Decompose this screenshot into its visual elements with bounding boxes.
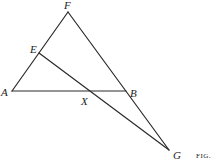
geometry-figure: F E A B X G FIG. xyxy=(0,0,217,161)
label-E: E xyxy=(29,43,37,55)
segment-FG xyxy=(68,12,169,150)
figure-caption: FIG. xyxy=(196,152,211,160)
segment-AF xyxy=(12,12,68,91)
label-B: B xyxy=(130,87,137,99)
label-A: A xyxy=(0,86,8,98)
label-F: F xyxy=(63,0,71,11)
segment-EG xyxy=(39,53,169,150)
label-X: X xyxy=(80,95,89,107)
label-G: G xyxy=(173,149,181,161)
